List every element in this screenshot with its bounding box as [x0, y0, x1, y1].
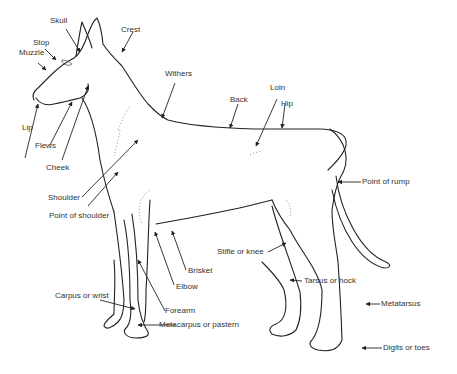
label-brisket: Brisket	[188, 267, 212, 275]
label-cheek: Cheek	[46, 164, 69, 172]
label-tarsus: Tarsus or hock	[304, 277, 356, 285]
label-stifle: Stifle or knee	[217, 248, 264, 256]
dog-foreleg	[104, 212, 124, 328]
label-shoulder: Shoulder	[48, 194, 80, 202]
label-lip: Lip	[22, 124, 33, 132]
label-carpus: Carpus or wrist	[55, 292, 109, 300]
label-crest: Crest	[121, 26, 140, 34]
dog-belly	[156, 200, 272, 224]
label-metatarsus: Metatarsus	[381, 300, 421, 308]
label-digits: Digits or toes	[383, 344, 430, 352]
label-muzzle: Muzzle	[19, 49, 44, 57]
label-point-of-rump: Point of rump	[362, 178, 410, 186]
label-loin: Loin	[270, 84, 285, 92]
label-forearm: Forearm	[165, 307, 195, 315]
dog-tail	[332, 176, 390, 268]
label-metacarpus: Metacarpus or pastern	[159, 321, 239, 329]
dog-jaw	[36, 84, 89, 105]
label-back: Back	[230, 96, 248, 104]
dog-drawing	[0, 0, 457, 374]
label-flews: Flews	[35, 142, 56, 150]
label-hip: Hip	[281, 100, 293, 108]
dog-head-outline	[33, 18, 346, 170]
label-elbow: Elbow	[176, 283, 198, 291]
label-stop: Stop	[33, 39, 49, 47]
label-withers: Withers	[165, 70, 192, 78]
dog-ear	[76, 22, 92, 56]
label-skull: Skull	[50, 17, 67, 25]
label-point-of-shoulder: Point of shoulder	[49, 212, 109, 220]
